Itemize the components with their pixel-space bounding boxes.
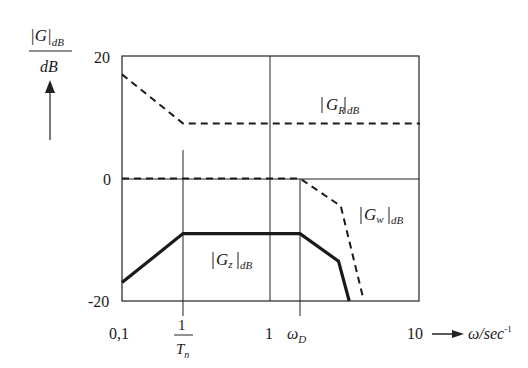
label-gz: Gz dB [213,250,253,271]
xtick-0-1: 0,1 [109,325,129,342]
ytick-20: 20 [94,49,110,66]
x-axis-label: ω/sec-1 [468,324,512,342]
up-arrow-icon [45,80,55,93]
ytick-0: 0 [103,171,111,188]
y-label-den: dB [40,58,58,75]
y-axis-label: |G|dB dB [29,26,72,140]
svg-text:dB: dB [240,259,253,271]
svg-text:GR: GR [326,95,345,116]
label-gw: Gw dB [361,205,404,226]
xtick-10: 10 [407,325,423,342]
svg-text:Gw: Gw [364,205,384,225]
xtick-omega-d: ωD [287,325,306,345]
right-arrow-icon [452,330,464,338]
xtick-tn-den: Tn [176,341,189,360]
svg-text:dB: dB [347,104,360,116]
series-line-0 [122,74,420,123]
series-layer [122,74,420,301]
y-label-num: |G|dB [30,26,64,48]
label-gr: GR dB [322,95,360,116]
xtick-tn-num: 1 [178,317,186,333]
svg-text:Gz: Gz [216,250,233,270]
bode-chart: |G|dB dB 20 0 -20 0,1 1 Tn 1 ωD 10 ω/sec… [0,0,528,368]
xtick-1: 1 [265,325,273,342]
series-line-2 [122,234,349,301]
series-line-1 [122,179,363,298]
svg-text:dB: dB [391,214,404,226]
ytick-minus20: -20 [88,293,109,310]
